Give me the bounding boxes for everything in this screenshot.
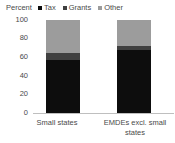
y-axis-title: Percent — [6, 4, 32, 12]
category-label-emdes: EMDEs excl. small states — [100, 118, 170, 138]
bar-segment-other-0 — [46, 20, 80, 53]
legend-item-other: Other — [98, 4, 123, 12]
bar-emdes-excl-small-states — [117, 20, 151, 113]
legend-label-grants: Grants — [69, 4, 92, 12]
legend-item-grants: Grants — [63, 4, 92, 12]
category-label-small-states: Small states — [26, 118, 88, 128]
bar-segment-tax-1 — [117, 50, 151, 113]
y-tick-100: 100 — [6, 16, 28, 24]
bar-segment-tax-0 — [46, 60, 80, 113]
bar-small-states — [46, 20, 80, 113]
bar-segment-grants-0 — [46, 53, 80, 60]
plot-area — [33, 20, 173, 113]
legend-label-other: Other — [104, 4, 123, 12]
chart-legend: Tax Grants Other — [38, 4, 123, 12]
legend-swatch-other — [98, 6, 102, 10]
bar-segment-other-1 — [117, 20, 151, 46]
legend-item-tax: Tax — [38, 4, 56, 12]
legend-swatch-tax — [38, 6, 42, 10]
legend-label-tax: Tax — [44, 4, 56, 12]
y-tick-0: 0 — [6, 109, 28, 117]
y-tick-60: 60 — [6, 53, 28, 61]
y-tick-80: 80 — [6, 34, 28, 42]
revenue-composition-chart: Percent Tax Grants Other 100 80 60 40 20… — [0, 0, 175, 143]
x-axis-line — [33, 113, 174, 114]
legend-swatch-grants — [63, 6, 67, 10]
y-tick-40: 40 — [6, 72, 28, 80]
y-tick-20: 20 — [6, 90, 28, 98]
